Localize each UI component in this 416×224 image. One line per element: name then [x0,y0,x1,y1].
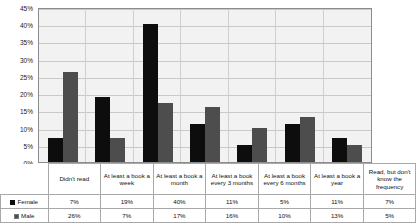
table-cell: 10% [258,209,311,223]
bar-female [95,97,110,162]
legend-swatch-icon [14,214,19,219]
bar-female [332,138,347,162]
bar-chart: 45%40%35%30%25%20%15%10%5%0% [0,0,392,164]
bar-male [252,128,267,162]
legend-label: Female [17,198,38,205]
table-column-header: At least a book every 6 months [258,164,311,195]
bar-group [276,9,323,162]
bar-male [158,103,173,162]
bar-male [63,72,78,162]
plot-area [38,8,372,163]
bar-male [205,107,220,162]
y-axis: 45%40%35%30%25%20%15%10%5%0% [0,0,36,164]
bar-male [110,138,125,162]
table-column-header: At least a book a week [101,164,154,195]
y-axis-tick: 30% [20,56,33,63]
table-cell: 7% [48,195,101,209]
legend-item-male[interactable]: Male [1,209,49,223]
legend-label: Male [21,212,34,219]
table-cell: 5% [258,195,311,209]
table-cell: 13% [311,209,364,223]
legend-swatch-icon [10,200,15,205]
bar-group [324,9,371,162]
bar-female [237,145,252,162]
bar-group [134,9,181,162]
table-cell: 16% [206,209,259,223]
table-cell: 7% [363,195,416,209]
legend-item-female[interactable]: Female [1,195,49,209]
y-axis-tick: 5% [24,142,33,149]
table-cell: 26% [48,209,101,223]
bar-group [86,9,133,162]
table-column-header: Didn't read [48,164,101,195]
table-header-row: Didn't readAt least a book a weekAt leas… [1,164,416,195]
y-axis-tick: 20% [20,91,33,98]
data-table: Didn't readAt least a book a weekAt leas… [0,163,416,223]
y-axis-tick: 45% [20,5,33,12]
bar-male [347,145,362,162]
data-table-body: Didn't readAt least a book a weekAt leas… [1,164,416,223]
bar-group [229,9,276,162]
bar-male [300,117,315,162]
table-cell: 19% [101,195,154,209]
bar-group [39,9,86,162]
bar-female [190,124,205,162]
y-axis-tick: 35% [20,39,33,46]
y-axis-tick: 10% [20,125,33,132]
bar-group [181,9,228,162]
table-column-header: At least a book a year [311,164,364,195]
table-cell: 7% [101,209,154,223]
table-row: Male26%7%17%16%10%13%5% [1,209,416,223]
y-axis-tick: 25% [20,73,33,80]
table-corner-cell [1,164,49,195]
bar-female [285,124,300,162]
table-row: Female7%19%40%11%5%11%7% [1,195,416,209]
table-column-header: At least a book a month [153,164,206,195]
bars-layer [39,9,371,162]
table-column-header: At least a book every 3 months [206,164,259,195]
table-cell: 5% [363,209,416,223]
y-axis-tick: 15% [20,108,33,115]
table-column-header: Read, but don't know the frequency [363,164,416,195]
table-cell: 11% [206,195,259,209]
table-cell: 40% [153,195,206,209]
y-axis-tick: 40% [20,22,33,29]
bar-female [48,138,63,162]
table-cell: 11% [311,195,364,209]
table-cell: 17% [153,209,206,223]
bar-female [143,24,158,162]
